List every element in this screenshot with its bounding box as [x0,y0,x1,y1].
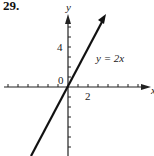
y-axis-label: y [65,1,71,13]
y-tick-label-4: 4 [57,41,63,53]
x-axis-arrow-icon [141,84,151,90]
figure: 29. [0,0,154,156]
equation-label: y = 2x [95,52,124,64]
line-arrow-icon [98,14,106,24]
line-y-equals-2x [31,20,103,156]
problem-number: 29. [3,0,19,14]
graph: y x 0 2 4 y = 2x [0,0,154,156]
origin-label: 0 [58,74,64,86]
y-axis-arrow-icon [65,14,71,24]
x-axis-label: x [150,84,154,96]
x-tick-label-2: 2 [85,90,91,102]
